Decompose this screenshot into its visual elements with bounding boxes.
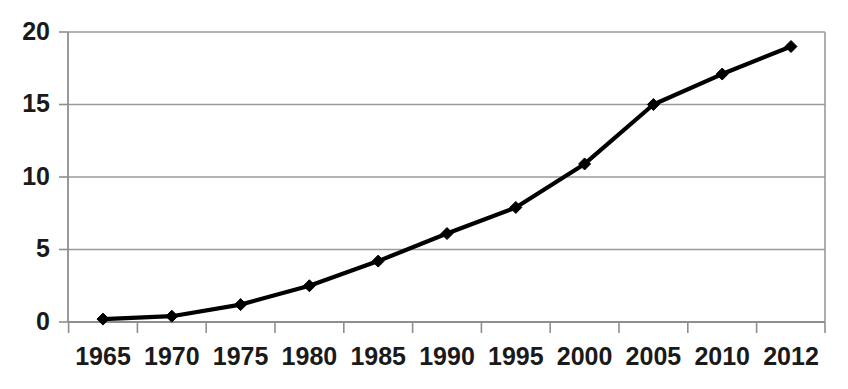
line-chart-figure: 05101520 1965197019751980198519901995200… xyxy=(0,0,848,389)
data-point-1980 xyxy=(303,280,315,292)
x-tick-label-1990: 1990 xyxy=(419,342,475,370)
data-point-markers xyxy=(97,41,797,326)
chart-canvas: 05101520 1965197019751980198519901995200… xyxy=(0,0,848,389)
data-point-1985 xyxy=(372,255,384,267)
y-tick-label-5: 5 xyxy=(36,234,50,262)
y-tick-label-10: 10 xyxy=(22,162,50,190)
data-point-2010 xyxy=(716,68,728,80)
data-point-2012 xyxy=(785,41,797,53)
data-point-1965 xyxy=(97,313,109,325)
y-axis xyxy=(59,32,68,322)
x-tick-label-2005: 2005 xyxy=(626,342,682,370)
x-tick-label-1995: 1995 xyxy=(488,342,544,370)
x-tick-label-1970: 1970 xyxy=(144,342,200,370)
x-tick-label-1975: 1975 xyxy=(213,342,269,370)
data-point-1990 xyxy=(441,228,453,240)
x-axis-tick-labels: 1965197019751980198519901995200020052010… xyxy=(75,342,819,370)
x-tick-label-2000: 2000 xyxy=(557,342,613,370)
series-polyline xyxy=(103,47,791,320)
y-axis-tick-labels: 05101520 xyxy=(22,17,50,335)
data-point-1975 xyxy=(235,299,247,311)
x-tick-label-1980: 1980 xyxy=(282,342,338,370)
y-tick-label-0: 0 xyxy=(36,307,50,335)
x-tick-label-2012: 2012 xyxy=(763,342,819,370)
data-series-line xyxy=(103,47,791,320)
x-tick-label-1965: 1965 xyxy=(75,342,131,370)
gridlines-group xyxy=(68,32,825,322)
x-axis xyxy=(68,322,825,333)
y-tick-label-20: 20 xyxy=(22,17,50,45)
y-tick-label-15: 15 xyxy=(22,89,50,117)
data-point-1970 xyxy=(166,310,178,322)
x-tick-label-1985: 1985 xyxy=(350,342,406,370)
x-tick-label-2010: 2010 xyxy=(694,342,750,370)
